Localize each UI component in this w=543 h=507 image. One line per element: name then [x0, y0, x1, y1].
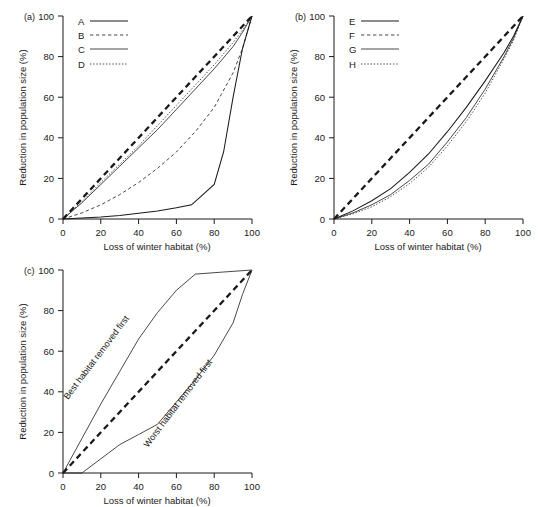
legend-key-C: C — [78, 44, 85, 55]
x-tick-label: 0 — [331, 227, 336, 238]
panel-b-y-tick-labels: 0 20 40 60 80 100 — [309, 11, 325, 225]
y-tick-label: 20 — [314, 173, 325, 184]
y-tick-label: 40 — [43, 386, 54, 397]
x-tick-label: 80 — [209, 227, 220, 238]
annotation-worst-habitat: Worst habitat removed first — [142, 357, 215, 449]
y-tick-label: 40 — [43, 132, 54, 143]
panel-c-y-tick-labels: 0 20 40 60 80 100 — [38, 265, 54, 479]
curve-reference-a — [63, 16, 252, 219]
panel-label-a: (a) — [24, 12, 35, 22]
x-tick-label: 60 — [171, 227, 182, 238]
panel-b-plot: 0 20 40 60 80 100 0 20 40 60 80 100 Loss… — [271, 0, 543, 253]
panel-a-y-ticks — [58, 16, 63, 219]
panel-a-plot: 0 20 40 60 80 100 0 20 40 60 80 100 Loss… — [0, 0, 272, 253]
panel-b-y-ticks — [329, 16, 334, 219]
panel-c-x-tick-labels: 0 20 40 60 80 100 — [60, 481, 260, 492]
y-tick-label: 60 — [314, 92, 325, 103]
y-axis-label: Reduction in population size (%) — [17, 49, 28, 185]
panel-a-y-tick-labels: 0 20 40 60 80 100 — [38, 11, 54, 225]
panel-b: 0 20 40 60 80 100 0 20 40 60 80 100 Loss… — [271, 0, 543, 253]
y-tick-label: 80 — [43, 305, 54, 316]
panel-label-b: (b) — [295, 12, 306, 22]
y-tick-label: 20 — [43, 427, 54, 438]
panel-label-c: (c) — [24, 266, 35, 276]
panel-b-x-ticks — [334, 219, 523, 224]
y-tick-label: 80 — [43, 51, 54, 62]
x-axis-label: Loss of winter habitat (%) — [374, 241, 481, 252]
panel-c-x-ticks — [63, 473, 252, 478]
legend-key-D: D — [78, 59, 85, 70]
panel-b-x-tick-labels: 0 20 40 60 80 100 — [331, 227, 531, 238]
x-tick-label: 0 — [60, 227, 65, 238]
legend-key-A: A — [78, 16, 85, 27]
legend-key-F: F — [349, 30, 355, 41]
legend-key-G: G — [349, 44, 356, 55]
legend-key-H: H — [349, 59, 356, 70]
x-tick-label: 20 — [96, 481, 107, 492]
x-tick-label: 0 — [60, 481, 65, 492]
x-tick-label: 20 — [96, 227, 107, 238]
y-tick-label: 100 — [38, 265, 54, 276]
y-tick-label: 100 — [309, 11, 325, 22]
x-tick-label: 40 — [404, 227, 415, 238]
panel-b-legend: E F G H — [349, 16, 399, 70]
x-tick-label: 40 — [133, 227, 144, 238]
x-tick-label: 20 — [367, 227, 378, 238]
y-tick-label: 60 — [43, 92, 54, 103]
x-tick-label: 100 — [244, 481, 260, 492]
y-tick-label: 20 — [43, 173, 54, 184]
x-tick-label: 100 — [515, 227, 531, 238]
y-tick-label: 100 — [38, 11, 54, 22]
x-axis-label: Loss of winter habitat (%) — [103, 495, 210, 506]
panel-b-curves — [334, 16, 523, 219]
panel-a-x-tick-labels: 0 20 40 60 80 100 — [60, 227, 260, 238]
x-tick-label: 60 — [171, 481, 182, 492]
y-axis-label: Reduction in population size (%) — [288, 49, 299, 185]
panel-a-curves — [63, 16, 252, 219]
x-axis-label: Loss of winter habitat (%) — [103, 241, 210, 252]
curve-F — [334, 16, 523, 219]
y-tick-label: 0 — [320, 214, 325, 225]
panel-a-x-ticks — [63, 219, 252, 224]
annotation-best-habitat: Best habitat removed first — [62, 313, 132, 401]
y-axis-label: Reduction in population size (%) — [17, 303, 28, 439]
y-tick-label: 40 — [314, 132, 325, 143]
y-tick-label: 0 — [49, 214, 54, 225]
panel-c-y-ticks — [58, 270, 63, 473]
panel-a: 0 20 40 60 80 100 0 20 40 60 80 100 Loss… — [0, 0, 272, 253]
x-tick-label: 80 — [480, 227, 491, 238]
x-tick-label: 40 — [133, 481, 144, 492]
y-tick-label: 60 — [43, 346, 54, 357]
legend-key-E: E — [349, 16, 355, 27]
y-tick-label: 80 — [314, 51, 325, 62]
x-tick-label: 60 — [442, 227, 453, 238]
y-tick-label: 0 — [49, 468, 54, 479]
x-tick-label: 100 — [244, 227, 260, 238]
panel-c: 0 20 40 60 80 100 0 20 40 60 80 100 Loss… — [0, 252, 272, 507]
x-tick-label: 80 — [209, 481, 220, 492]
panel-c-plot: 0 20 40 60 80 100 0 20 40 60 80 100 Loss… — [0, 252, 272, 507]
panel-a-legend: A B C D — [78, 16, 128, 70]
legend-key-B: B — [78, 30, 84, 41]
